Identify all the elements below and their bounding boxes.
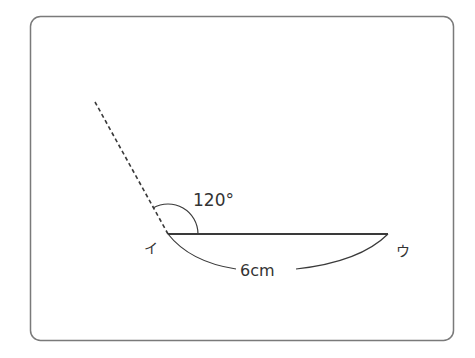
dashed-ray xyxy=(95,102,168,234)
length-label: 6cm xyxy=(240,261,275,280)
angle-label: 120° xyxy=(193,190,234,210)
length-brace-left xyxy=(168,234,236,269)
vertex-label-u: ウ xyxy=(396,243,410,259)
figure-frame xyxy=(31,17,454,341)
vertex-label-i: イ xyxy=(144,240,158,256)
length-brace-right xyxy=(296,234,388,269)
geometry-figure: 120° 6cm イ ウ xyxy=(0,0,475,358)
